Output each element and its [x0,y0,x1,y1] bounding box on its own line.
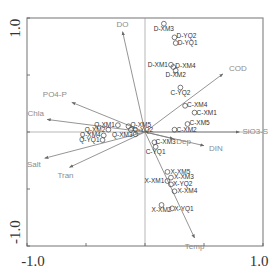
point-label: Q-YQ1 [79,136,100,144]
arrow-label: DIN [209,144,223,153]
point-label: D-XM3 [154,25,175,32]
arrow-label: PO4-P [43,90,67,99]
point-label: D-XM2 [166,71,187,78]
arrow-label: DO [117,20,129,29]
sample-point: C-YQ1 [146,144,166,155]
x-tick-label-left: -1.0 [21,253,45,269]
point-marker [165,170,170,175]
point-label: C-XM1 [197,109,218,116]
sample-point: C-YQ2 [170,85,190,96]
point-label: X-XM4 [178,187,198,194]
point-label: Q-XM3 [112,131,133,139]
arrow-label: Chla [28,109,45,118]
sample-point: X-XM2 [152,203,172,213]
point-marker [100,138,105,143]
point-label: C-YQ1 [146,148,166,156]
sample-point: D-XM1 [148,61,174,68]
point-label: X-XM3 [174,173,194,180]
arrow-label: COD [229,64,247,73]
sample-point: C-XM1 [192,109,217,116]
arrow-label: Tran [57,171,73,180]
sample-points: D-XM3D-YQ2D-YQ1D-XM1D-XM4D-XM2C-YQ2C-XM4… [79,21,217,213]
point-marker [115,123,120,128]
sample-point: C-XM2 [172,126,197,133]
point-marker [101,133,106,138]
point-label: D-XM4 [175,62,196,69]
sample-point: Q-YQ1 [79,136,105,144]
arrow-label: Temp [185,242,205,251]
point-label: C-XM2 [177,126,198,133]
point-label: C-YQ2 [170,89,190,97]
biplot-chart: DOCODSiO3-SDINDepPO4-PChlaSaltTranTemp D… [0,0,278,274]
point-label: X-YQ1 [174,205,194,213]
sample-point: D-YQ1 [173,39,198,47]
sample-point: X-YQ1 [170,205,194,213]
arrow-line [145,74,223,132]
point-label: X-XM1 [145,177,165,184]
point-label: D-XM1 [148,61,169,68]
environment-arrows: DOCODSiO3-SDINDepPO4-PChlaSaltTranTemp [27,20,268,251]
arrow-label: SiO3-S [242,127,268,136]
sample-point: X-XM4 [172,187,198,194]
sample-point: C-XM4 [183,101,208,108]
arrow-sio3-s: SiO3-S [145,127,268,136]
point-label: Q-YQ2 [133,126,154,134]
point-label: C-XM3 [155,138,176,145]
y-tick-label-bottom: -1.0 [7,220,23,244]
point-label: X-XM2 [152,206,172,213]
arrow-tran: Tran [57,132,145,180]
point-label: C-XM4 [187,101,208,108]
y-tick-label-top: 1.0 [7,19,23,38]
point-label: D-YQ1 [178,39,198,47]
arrow-line [123,32,145,132]
arrow-label: Salt [27,160,42,169]
sample-point: D-XM3 [154,21,175,31]
sample-point: D-XM2 [166,68,187,78]
arrow-do: DO [117,20,145,132]
x-tick-label-right: 1.0 [250,253,269,269]
sample-point: X-XM1 [145,177,170,184]
sample-point: Q-XM3 [112,131,138,139]
arrow-label: Dep [176,137,191,146]
